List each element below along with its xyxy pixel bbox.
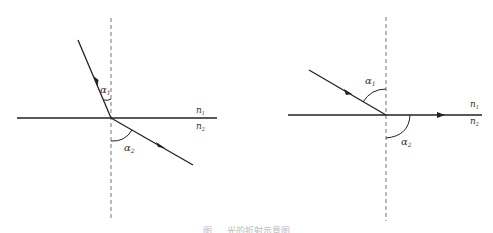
figure-caption: 图 … 光的折射示意图: [0, 224, 493, 233]
left-incident-arrow-icon: [94, 76, 99, 86]
left-diagram: α1 α2 n1 n2: [17, 18, 217, 221]
refraction-diagram: α1 α2 n1 n2 α1 α2 n1 n2: [0, 0, 493, 233]
right-refracted-arrow-icon: [437, 112, 445, 118]
left-alpha2-label: α2: [124, 142, 135, 154]
right-alpha1-arc: [363, 89, 386, 102]
right-diagram: α1 α2 n1 n2: [288, 17, 482, 221]
left-refracted-arrow-icon: [156, 142, 165, 148]
right-n1-label: n1: [470, 99, 479, 110]
right-n2-label: n2: [470, 116, 479, 127]
left-incident-ray: [78, 40, 111, 118]
left-alpha2-arc: [111, 130, 132, 141]
left-n1-label: n1: [196, 105, 205, 116]
left-alpha1-arc: [104, 99, 111, 100]
right-alpha2-label: α2: [401, 136, 412, 148]
left-alpha1-label: α1: [100, 84, 111, 96]
right-alpha1-label: α1: [365, 75, 376, 87]
right-incident-arrow-icon: [344, 89, 352, 95]
left-n2-label: n2: [196, 121, 205, 132]
right-alpha2-arc: [386, 115, 410, 138]
